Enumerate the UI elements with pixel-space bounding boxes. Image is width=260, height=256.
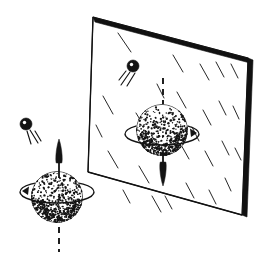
stipple-dot (166, 140, 168, 142)
stipple-dot (141, 138, 142, 139)
stipple-dot (170, 130, 172, 132)
stipple-dot (48, 200, 50, 202)
stipple-dot (55, 189, 57, 191)
stipple-dot (167, 136, 168, 137)
stipple-dot (177, 121, 179, 123)
stipple-dot (43, 183, 45, 185)
stipple-dot (48, 183, 50, 185)
stipple-dot (80, 196, 81, 197)
stipple-dot (156, 126, 158, 128)
stipple-dot (160, 118, 162, 120)
stipple-dot (152, 136, 154, 138)
stipple-dot (156, 137, 157, 138)
stipple-dot (57, 213, 58, 214)
stipple-dot (51, 179, 52, 180)
stipple-dot (147, 111, 148, 112)
stipple-dot (64, 190, 66, 192)
stipple-dot (65, 193, 67, 195)
stipple-dot (176, 123, 178, 125)
stipple-dot (150, 121, 152, 123)
stipple-dot (77, 189, 78, 190)
stipple-dot (71, 194, 73, 196)
stipple-dot (178, 121, 180, 123)
stipple-dot (68, 214, 69, 215)
stipple-dot (144, 113, 146, 115)
stipple-dot (37, 206, 39, 208)
stipple-dot (178, 147, 179, 148)
stipple-dot (45, 217, 47, 219)
stipple-dot (151, 132, 153, 134)
stipple-dot (51, 220, 52, 221)
stipple-dot (148, 146, 150, 148)
stipple-dot (149, 142, 151, 144)
stipple-dot (60, 219, 62, 221)
stipple-dot (182, 139, 184, 141)
stipple-dot (139, 120, 141, 122)
stipple-dot (56, 199, 58, 201)
stipple-dot (170, 138, 172, 140)
stipple-dot (67, 189, 69, 191)
stipple-dot (155, 106, 157, 108)
stipple-dot (70, 179, 71, 180)
stipple-dot (170, 141, 172, 143)
stipple-dot (57, 211, 58, 212)
stipple-dot (65, 192, 66, 193)
stipple-dot (156, 148, 158, 150)
stipple-dot (158, 141, 160, 143)
stipple-dot (181, 117, 183, 119)
stipple-dot (62, 184, 64, 186)
stipple-dot (178, 145, 180, 147)
stipple-dot (161, 124, 163, 126)
particle-highlight (23, 121, 26, 124)
stipple-dot (176, 132, 178, 134)
stipple-dot (169, 112, 171, 114)
stipple-dot (67, 211, 69, 213)
stipple-dot (160, 147, 162, 149)
stipple-dot (38, 204, 40, 206)
stipple-dot (162, 131, 164, 133)
stipple-dot (57, 184, 59, 186)
stipple-dot (151, 135, 153, 137)
stipple-dot (156, 140, 158, 142)
stipple-dot (52, 178, 53, 179)
stipple-dot (58, 196, 60, 198)
stipple-dot (157, 132, 159, 134)
stipple-dot (64, 216, 65, 217)
stipple-dot (71, 199, 72, 200)
stipple-dot (50, 219, 51, 220)
stipple-dot (49, 194, 51, 196)
stipple-dot (173, 150, 174, 151)
stipple-dot (42, 215, 44, 217)
stipple-dot (71, 212, 73, 214)
stipple-dot (50, 175, 52, 177)
stipple-dot (40, 195, 42, 197)
stipple-dot (62, 218, 63, 219)
stipple-dot (60, 180, 61, 181)
stipple-dot (139, 136, 141, 138)
stipple-dot (64, 186, 66, 188)
stipple-dot (60, 214, 61, 215)
stipple-dot (151, 140, 152, 141)
stipple-dot (150, 139, 151, 140)
stipple-dot (66, 207, 68, 209)
stipple-dot (175, 125, 177, 127)
stipple-dot (144, 141, 145, 142)
stipple-dot (69, 191, 71, 193)
stipple-dot (41, 180, 43, 182)
stipple-dot (174, 148, 176, 150)
stipple-dot (159, 112, 161, 114)
stipple-dot (63, 184, 64, 185)
stipple-dot (53, 173, 55, 175)
stipple-dot (185, 127, 186, 128)
stipple-dot (167, 122, 169, 124)
stipple-dot (180, 124, 181, 125)
stipple-dot (35, 198, 37, 200)
stipple-dot (38, 186, 40, 188)
stipple-dot (146, 140, 148, 142)
stipple-dot (145, 146, 146, 147)
stipple-dot (62, 194, 64, 196)
stipple-dot (167, 150, 169, 152)
stipple-dot (180, 135, 182, 137)
stipple-dot (140, 118, 141, 119)
stipple-dot (164, 127, 166, 129)
